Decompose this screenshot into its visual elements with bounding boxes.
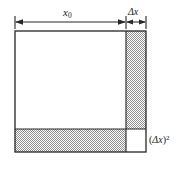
dimension-line-group <box>15 16 146 29</box>
label-delta-x: Δx <box>128 7 138 17</box>
label-dx2-base: Δx <box>152 134 162 145</box>
label-x0: x0 <box>63 7 72 19</box>
region-delta-x-squared <box>126 129 146 152</box>
dimension-arrowhead-dx-right <box>139 20 146 25</box>
region-x0-squared <box>15 31 126 129</box>
region-right-hatched-column <box>126 31 146 129</box>
label-x0-subscript: 0 <box>68 11 72 20</box>
dimension-arrowhead-x0-right <box>118 19 126 24</box>
dimension-arrowhead-x0-left <box>15 19 23 24</box>
label-delta-x-squared: (Δx)2 <box>149 135 170 145</box>
region-bottom-hatched-strip <box>15 129 126 152</box>
label-dx2-exponent: 2 <box>166 134 170 142</box>
dimension-arrowhead-dx-left <box>126 20 133 25</box>
geometry-figure: x0 Δx (Δx)2 <box>0 0 179 170</box>
